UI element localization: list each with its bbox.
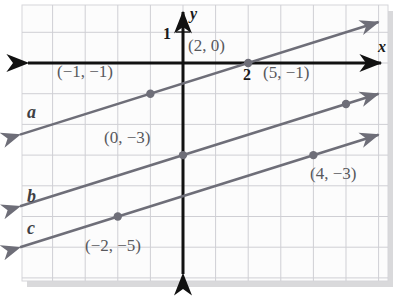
tick-label-1: 1 (163, 25, 171, 43)
line-label-a: a (27, 102, 36, 123)
point-label-p-5-neg1: (5, −1) (263, 63, 309, 83)
axis-label-x: x (378, 38, 386, 56)
data-point (146, 90, 154, 98)
point-label-p-0-neg3: (0, −3) (104, 128, 150, 148)
axis-label-y: y (190, 5, 197, 23)
data-point (342, 100, 350, 108)
tick-label-2: 2 (243, 66, 251, 84)
line-label-b: b (27, 186, 36, 207)
point-label-p-neg2-neg5: (−2, −5) (85, 236, 141, 256)
line-label-c: c (27, 218, 35, 239)
data-point (114, 212, 122, 220)
data-point (179, 151, 187, 159)
figure-canvas: (−1, −1)(2, 0)(5, −1)(0, −3)(4, −3)(−2, … (0, 0, 407, 299)
point-label-p-2-0: (2, 0) (188, 36, 225, 56)
data-point (309, 151, 317, 159)
point-label-p-neg1-neg1: (−1, −1) (57, 62, 113, 82)
point-label-p-4-neg3: (4, −3) (310, 164, 356, 184)
